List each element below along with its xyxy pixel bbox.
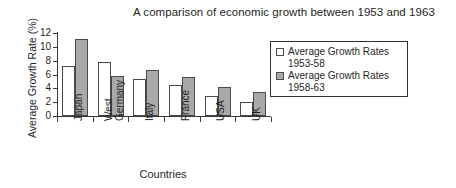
y-axis-tick-label: 12 <box>9 28 51 38</box>
y-axis-tick-label: 2 <box>9 97 51 107</box>
y-axis-tick-labels: 024681012 <box>0 0 51 188</box>
legend-swatch-icon <box>276 72 284 80</box>
legend-item: Average Growth Rates 1953-58 <box>276 46 407 69</box>
x-axis-category-label: West Germany <box>104 80 125 121</box>
y-axis-tick-label: 10 <box>9 42 51 52</box>
chart-title: A comparison of economic growth between … <box>133 6 435 18</box>
x-axis-category-label: UK <box>252 107 263 121</box>
legend-label: Average Growth Rates 1958-63 <box>288 70 389 93</box>
legend-label: Average Growth Rates 1953-58 <box>288 46 389 69</box>
x-axis-tick <box>93 117 94 122</box>
x-axis-title: Countries <box>108 168 218 180</box>
y-axis-tick-label: 8 <box>9 56 51 66</box>
chart-legend: Average Growth Rates 1953-58Average Grow… <box>270 41 408 97</box>
plot-area <box>57 33 271 116</box>
x-axis-category-label: Japan <box>74 94 85 121</box>
y-axis-tick-label: 6 <box>9 70 51 80</box>
x-axis-category-label: France <box>181 90 192 121</box>
x-axis-tick <box>200 117 201 122</box>
x-axis-tick <box>164 117 165 122</box>
legend-swatch-icon <box>276 48 284 56</box>
x-axis-category-label: Italy <box>145 103 156 121</box>
x-axis-tick <box>57 117 58 122</box>
legend-item: Average Growth Rates 1958-63 <box>276 70 407 93</box>
y-axis-tick-label: 0 <box>9 111 51 121</box>
y-axis-tick-label: 4 <box>9 83 51 93</box>
x-axis-category-label: USA <box>216 100 227 121</box>
x-axis-tick <box>235 117 236 122</box>
x-axis-tick <box>271 117 272 122</box>
x-axis-tick <box>128 117 129 122</box>
